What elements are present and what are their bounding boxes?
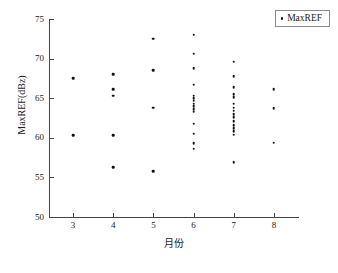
x-tick-label: 6 — [184, 220, 204, 230]
data-point-marker — [112, 166, 115, 169]
y-tick-label: 60 — [28, 133, 44, 142]
data-point-marker — [192, 34, 195, 37]
x-tick-label: 8 — [264, 220, 284, 230]
data-point-marker — [232, 86, 235, 89]
y-tick-label: 50 — [28, 213, 44, 222]
data-point-marker — [273, 141, 276, 144]
y-tick-label: 70 — [28, 54, 44, 63]
data-point-marker — [192, 67, 195, 70]
x-axis-title: 月份 — [49, 238, 299, 249]
data-point-marker — [232, 60, 235, 63]
data-point-marker — [232, 116, 235, 119]
x-tick-label: 3 — [63, 220, 83, 230]
data-point-marker — [192, 133, 195, 136]
data-point-marker — [232, 120, 235, 123]
data-point-marker — [152, 106, 155, 109]
y-tick-label: 75 — [28, 15, 44, 24]
x-tick-label: 4 — [103, 220, 123, 230]
y-tick-mark — [50, 217, 54, 218]
legend-dot-icon — [281, 17, 284, 20]
x-axis-line — [49, 217, 299, 218]
data-point-marker — [232, 133, 235, 136]
legend: MaxREF — [275, 10, 330, 27]
y-axis-title: MaxREF(dBz) — [17, 45, 27, 165]
data-point-marker — [152, 38, 155, 41]
data-point-marker — [192, 83, 195, 86]
data-point-marker — [192, 142, 195, 145]
data-point-marker — [192, 148, 195, 151]
plot-data-area — [49, 19, 298, 217]
y-tick-label: 55 — [28, 173, 44, 182]
x-tick-label: 7 — [224, 220, 244, 230]
data-point-marker — [112, 73, 115, 76]
x-tick-label: 5 — [143, 220, 163, 230]
data-point-marker — [112, 134, 115, 137]
data-point-marker — [192, 122, 195, 125]
data-point-marker — [232, 75, 235, 78]
data-point-marker — [232, 161, 235, 164]
y-tick-label: 65 — [28, 94, 44, 103]
data-point-marker — [273, 88, 276, 91]
data-point-marker — [152, 69, 155, 72]
data-point-marker — [192, 110, 195, 113]
data-point-marker — [72, 134, 75, 137]
data-point-marker — [112, 95, 115, 98]
data-point-marker — [192, 53, 195, 56]
data-point-marker — [273, 107, 276, 110]
data-point-marker — [112, 88, 115, 91]
data-point-marker — [72, 77, 75, 80]
data-point-marker — [232, 96, 235, 99]
scatter-plot-figure: 505560657075 345678 MaxREF(dBz) 月份 MaxRE… — [0, 0, 338, 273]
legend-label: MaxREF — [287, 13, 322, 24]
data-point-marker — [152, 170, 155, 173]
data-point-marker — [232, 102, 235, 105]
